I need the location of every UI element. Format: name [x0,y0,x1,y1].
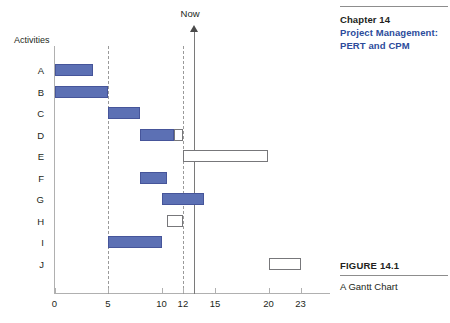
x-axis-line [54,293,330,294]
gantt-chart: Activities Now 051012152023 ABCDEFGHIJ [0,0,340,323]
chapter-title-line-2: PERT and CPM [340,39,448,52]
gantt-bar-i[interactable] [108,236,162,248]
gantt-bar-d[interactable] [174,129,183,141]
x-tick-mark [301,288,302,293]
now-arrow-icon [190,25,198,32]
x-tick-mark [108,288,109,293]
caption-divider-rule [340,275,448,276]
x-tick-label: 15 [210,298,221,309]
now-vertical-line [194,30,195,294]
x-tick-label: 5 [105,298,110,309]
chapter-title-line-1: Project Management: [340,26,448,39]
x-tick-label: 12 [178,298,189,309]
gantt-bar-h[interactable] [167,215,183,227]
category-label-a: A [10,65,44,76]
y-axis-line [54,46,55,294]
x-tick-label: 20 [263,298,274,309]
figure-caption: FIGURE 14.1 A Gantt Chart [340,259,448,293]
reference-line [183,46,184,294]
gantt-bar-c[interactable] [108,107,140,119]
gantt-bar-a[interactable] [55,64,94,76]
gantt-bar-e[interactable] [183,150,269,162]
reference-line [108,46,109,294]
y-axis-title: Activities [14,35,50,45]
category-label-h: H [10,215,44,226]
gantt-bar-b[interactable] [55,86,109,98]
category-label-f: F [10,172,44,183]
gantt-bar-f[interactable] [140,172,167,184]
x-tick-label: 23 [295,298,306,309]
x-tick-label: 10 [156,298,167,309]
category-label-d: D [10,129,44,140]
now-annotation-label: Now [181,8,200,19]
chapter-number: Chapter 14 [340,13,448,26]
chapter-running-head: Chapter 14 Project Management: PERT and … [340,6,448,52]
gantt-bar-g[interactable] [162,193,205,205]
x-tick-mark [183,288,184,293]
category-label-c: C [10,108,44,119]
category-label-j: J [10,258,44,269]
x-tick-mark [215,288,216,293]
gantt-bar-d[interactable] [140,129,174,141]
gantt-bar-j[interactable] [269,258,301,270]
category-label-e: E [10,151,44,162]
x-tick-label: 0 [52,298,57,309]
x-tick-mark [162,288,163,293]
header-divider-rule [340,6,448,7]
x-tick-mark [269,288,270,293]
category-label-g: G [10,194,44,205]
x-tick-mark [55,288,56,293]
figure-title: A Gantt Chart [340,280,448,293]
category-label-b: B [10,86,44,97]
figure-label: FIGURE 14.1 [340,259,448,272]
category-label-i: I [10,237,44,248]
